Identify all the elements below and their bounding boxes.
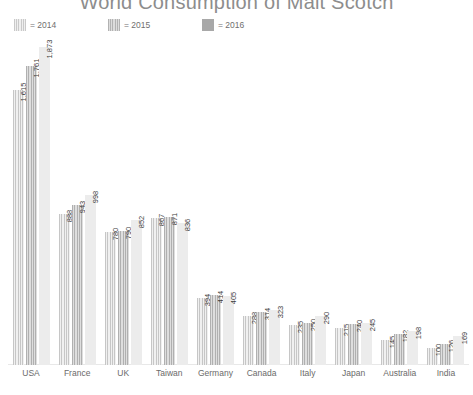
- x-tick-label-australia: Australia: [377, 368, 423, 378]
- bar-taiwan-2015[interactable]: 871: [164, 217, 175, 365]
- legend-item-2014[interactable]: = 2014: [14, 19, 56, 31]
- bar-germany-2014[interactable]: 394: [197, 298, 208, 365]
- plot-area: 1,6151,7611,8738889439987807908528678718…: [8, 42, 469, 365]
- bar-group: 394414405: [192, 42, 238, 365]
- bar-group: 215240245: [331, 42, 377, 365]
- bar-australia-2016[interactable]: 198: [407, 331, 418, 365]
- bar-taiwan-2016[interactable]: 836: [177, 223, 188, 365]
- bar-canada-2016[interactable]: 323: [269, 310, 280, 365]
- bar-india-2014[interactable]: 100: [427, 348, 438, 365]
- legend-swatch-icon-2015: [108, 19, 120, 31]
- x-tick-label-france: France: [54, 368, 100, 378]
- bar-australia-2014[interactable]: 145: [381, 340, 392, 365]
- x-tick-label-germany: Germany: [192, 368, 238, 378]
- bar-group: 235250290: [285, 42, 331, 365]
- bar-canada-2014[interactable]: 288: [243, 316, 254, 365]
- bar-japan-2016[interactable]: 245: [361, 323, 372, 365]
- legend-label-2015: = 2015: [124, 20, 150, 30]
- page-title: World Consumption of Malt Scotch: [0, 0, 473, 14]
- bar-italy-2014[interactable]: 235: [289, 325, 300, 365]
- bar-uk-2015[interactable]: 790: [118, 231, 129, 365]
- legend-item-2016[interactable]: = 2016: [202, 19, 244, 31]
- bar-australia-2015[interactable]: 182: [394, 334, 405, 365]
- bar-usa-2014[interactable]: 1,615: [13, 90, 24, 365]
- bar-uk-2016[interactable]: 852: [131, 220, 142, 365]
- bar-india-2016[interactable]: 169: [453, 336, 464, 365]
- x-tick-label-canada: Canada: [238, 368, 284, 378]
- legend-label-2016: = 2016: [218, 20, 244, 30]
- bar-france-2014[interactable]: 888: [59, 214, 70, 365]
- x-tick-label-usa: USA: [8, 368, 54, 378]
- bar-france-2015[interactable]: 943: [72, 205, 83, 365]
- bar-germany-2015[interactable]: 414: [210, 295, 221, 365]
- x-tick-label-taiwan: Taiwan: [146, 368, 192, 378]
- bar-group: 780790852: [100, 42, 146, 365]
- legend-label-2014: = 2014: [30, 20, 56, 30]
- bar-group: 100126169: [423, 42, 469, 365]
- bar-value-label: 169: [459, 332, 470, 345]
- bar-usa-2015[interactable]: 1,761: [26, 66, 37, 365]
- bar-usa-2016[interactable]: 1,873: [39, 47, 50, 365]
- bar-group: 288314323: [238, 42, 284, 365]
- bar-uk-2014[interactable]: 780: [105, 232, 116, 365]
- bar-chart: World Consumption of Malt Scotch = 2014 …: [0, 0, 473, 395]
- bar-group: 1,6151,7611,873: [8, 42, 54, 365]
- x-tick-label-uk: UK: [100, 368, 146, 378]
- legend-swatch-icon-2014: [14, 19, 26, 31]
- bar-group: 888943998: [54, 42, 100, 365]
- bar-groups: 1,6151,7611,8738889439987807908528678718…: [8, 42, 469, 365]
- x-tick-label-japan: Japan: [331, 368, 377, 378]
- x-axis-labels: USAFranceUKTaiwanGermanyCanadaItalyJapan…: [8, 368, 469, 378]
- x-tick-label-india: India: [423, 368, 469, 378]
- bar-japan-2014[interactable]: 215: [335, 328, 346, 365]
- bar-taiwan-2014[interactable]: 867: [151, 218, 162, 365]
- bar-group: 867871836: [146, 42, 192, 365]
- bar-canada-2015[interactable]: 314: [256, 312, 267, 365]
- bar-japan-2015[interactable]: 240: [348, 324, 359, 365]
- legend-swatch-icon-2016: [202, 19, 214, 31]
- x-tick-label-italy: Italy: [285, 368, 331, 378]
- bar-italy-2016[interactable]: 290: [315, 316, 326, 365]
- bar-india-2015[interactable]: 126: [440, 344, 451, 365]
- bar-italy-2015[interactable]: 250: [302, 323, 313, 366]
- bar-germany-2016[interactable]: 405: [223, 296, 234, 365]
- legend-item-2015[interactable]: = 2015: [108, 19, 150, 31]
- bar-group: 145182198: [377, 42, 423, 365]
- chart-legend: = 2014 = 2015 = 2016: [14, 19, 314, 33]
- bar-france-2016[interactable]: 998: [85, 195, 96, 365]
